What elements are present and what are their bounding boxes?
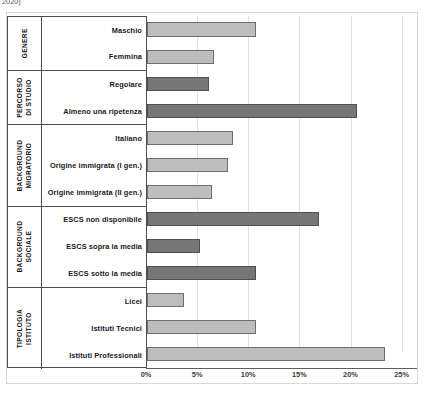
bar	[147, 266, 256, 280]
category-row: ESCS sopra la media	[42, 233, 146, 260]
x-axis-tick-label: 5%	[192, 370, 203, 379]
chart-page: 2020) GENEREMaschioFemminaPERCORSO DI ST…	[0, 0, 424, 396]
bar	[147, 293, 184, 307]
group-label-text: BACKGROUND MIGRATORIO	[16, 139, 33, 191]
category-row: ESCS non disponibile	[42, 207, 146, 234]
category-label: ESCS non disponibile	[63, 215, 142, 224]
x-axis-tick-label: 20%	[343, 370, 358, 379]
group-rows: MaschioFemmina	[42, 17, 146, 70]
group-label: GENERE	[8, 17, 42, 70]
category-row: Regolare	[42, 71, 146, 98]
category-label: Licei	[125, 297, 142, 306]
group-rows: ESCS non disponibileESCS sopra la mediaE…	[42, 207, 146, 287]
bar	[147, 50, 214, 64]
group-label-text: PERCORSO DI STUDIO	[16, 77, 33, 118]
bar	[147, 77, 209, 91]
group-label-text: BACKGROUND SOCIALE	[16, 221, 33, 273]
category-label: Regolare	[110, 80, 142, 89]
category-row: Femmina	[42, 44, 146, 71]
group-rows: LiceiIstituti TecniciIstituti Profession…	[42, 288, 146, 369]
group-label: PERCORSO DI STUDIO	[8, 71, 42, 124]
bar	[147, 104, 357, 118]
bar	[147, 158, 228, 172]
category-label: Origine immigrata (I gen.)	[50, 161, 142, 170]
category-label: ESCS sopra la media	[66, 242, 142, 251]
bar	[147, 347, 385, 361]
category-label-block: GENEREMaschioFemminaPERCORSO DI STUDIORe…	[7, 16, 147, 368]
x-axis-line	[146, 368, 417, 369]
category-group: BACKGROUND SOCIALEESCS non disponibileES…	[8, 207, 146, 288]
caption-fragment: 2020)	[2, 0, 21, 7]
category-row: ESCS sotto la media	[42, 260, 146, 287]
category-row: Istituti Professionali	[42, 342, 146, 369]
category-label: ESCS sotto la media	[68, 269, 142, 278]
category-label: Italiano	[115, 134, 142, 143]
category-group: PERCORSO DI STUDIORegolareAlmeno una rip…	[8, 71, 146, 125]
group-rows: RegolareAlmeno una ripetenza	[42, 71, 146, 124]
category-label: Femmina	[109, 52, 142, 61]
category-label: Origine immigrata (II gen.)	[48, 188, 142, 197]
bar	[147, 185, 212, 199]
category-group: TIPOLOGIA ISTITUTOLiceiIstituti TecniciI…	[8, 288, 146, 369]
group-label-text: GENERE	[20, 29, 29, 59]
x-axis-tick-label: 15%	[292, 370, 307, 379]
category-row: Maschio	[42, 17, 146, 44]
category-label: Istituti Tecnici	[91, 324, 142, 333]
category-group: BACKGROUND MIGRATORIOItalianoOrigine imm…	[8, 125, 146, 206]
group-rows: ItalianoOrigine immigrata (I gen.)Origin…	[42, 125, 146, 205]
x-axis-tick-labels: 0%5%10%15%20%25%	[146, 370, 417, 384]
bar	[147, 22, 256, 36]
bar	[147, 131, 233, 145]
bar	[147, 212, 319, 226]
group-label: BACKGROUND SOCIALE	[8, 207, 42, 287]
category-row: Origine immigrata (II gen.)	[42, 179, 146, 206]
group-label: BACKGROUND MIGRATORIO	[8, 125, 42, 205]
bar	[147, 320, 256, 334]
x-axis-tick-label: 25%	[394, 370, 409, 379]
category-row: Italiano	[42, 125, 146, 152]
category-row: Licei	[42, 288, 146, 315]
category-label: Istituti Professionali	[69, 351, 142, 360]
category-row: Origine immigrata (I gen.)	[42, 152, 146, 179]
bar	[147, 239, 200, 253]
bars-layer	[147, 16, 417, 368]
group-label-text: TIPOLOGIA ISTITUTO	[16, 309, 33, 348]
group-label: TIPOLOGIA ISTITUTO	[8, 288, 42, 369]
category-row: Almeno una ripetenza	[42, 98, 146, 125]
x-axis-tick-label: 10%	[241, 370, 256, 379]
category-group: GENEREMaschioFemmina	[8, 17, 146, 71]
category-row: Istituti Tecnici	[42, 315, 146, 342]
category-label: Maschio	[112, 26, 142, 35]
category-label: Almeno una ripetenza	[63, 107, 142, 116]
x-axis-tick-label: 0%	[141, 370, 152, 379]
